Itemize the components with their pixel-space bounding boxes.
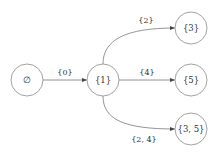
edge-curve	[103, 96, 175, 129]
edge-s1-to-s5: {4}	[119, 68, 175, 81]
node-label: {3, 5}	[177, 124, 204, 134]
edge-s1-to-s3: {2}	[103, 16, 175, 65]
node-s5: {5}	[175, 64, 207, 96]
node-label: {1}	[95, 75, 111, 85]
edge-label: {4}	[139, 68, 154, 77]
state-diagram: {0} {2} {4} {2, 4} ∅ {1} {3} {5} {3, 5}	[0, 0, 219, 153]
edge-curve	[103, 28, 175, 64]
node-s3: {3}	[175, 12, 207, 44]
edge-s1-to-s35: {2, 4}	[103, 96, 175, 144]
edge-empty-to-s1: {0}	[43, 68, 87, 81]
edge-label: {2}	[138, 16, 153, 25]
edge-label: {2, 4}	[131, 135, 156, 144]
node-s1: {1}	[87, 64, 119, 96]
edge-label: {0}	[57, 68, 72, 77]
node-label: ∅	[23, 75, 31, 85]
node-empty: ∅	[11, 64, 43, 96]
node-label: {3}	[183, 23, 199, 33]
node-s35: {3, 5}	[175, 113, 207, 145]
node-label: {5}	[183, 75, 199, 85]
